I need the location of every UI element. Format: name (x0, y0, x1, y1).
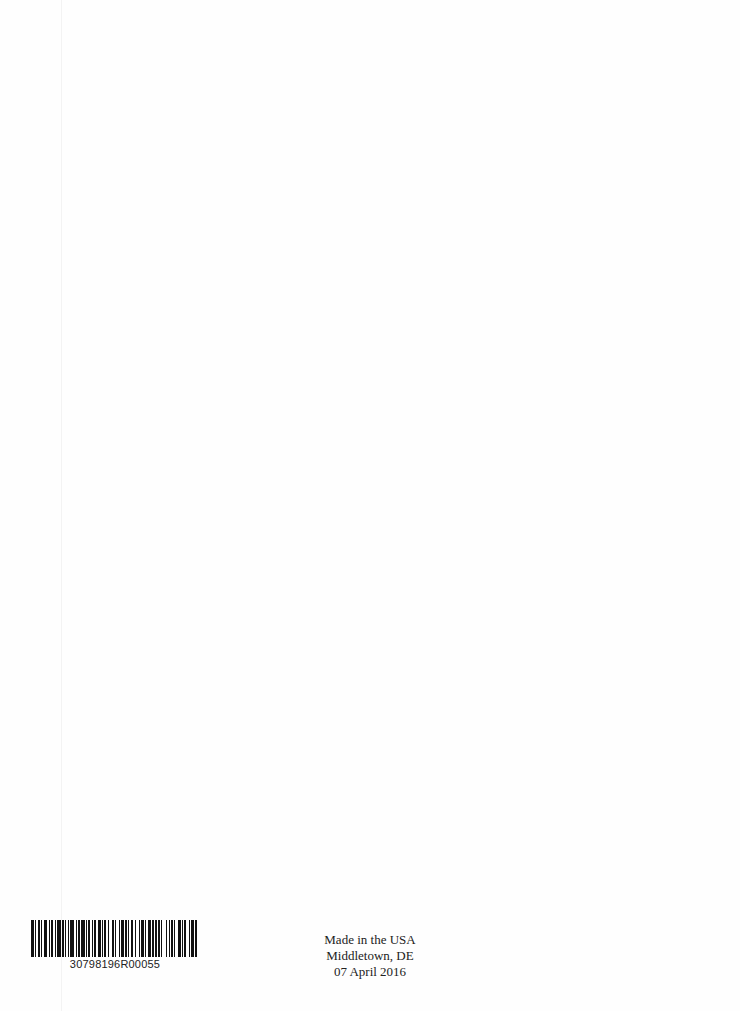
barcode-icon (31, 920, 199, 957)
imprint-date: 07 April 2016 (290, 964, 450, 980)
printer-imprint: Made in the USA Middletown, DE 07 April … (290, 932, 450, 980)
barcode-block: 30798196R00055 (31, 920, 199, 970)
barcode-number: 30798196R00055 (31, 958, 199, 970)
barcode-bar (197, 920, 198, 957)
imprint-location: Middletown, DE (290, 948, 450, 964)
page-fold-line (61, 0, 62, 1011)
blank-page: 30798196R00055 Made in the USA Middletow… (0, 0, 740, 1011)
imprint-country: Made in the USA (290, 932, 450, 948)
